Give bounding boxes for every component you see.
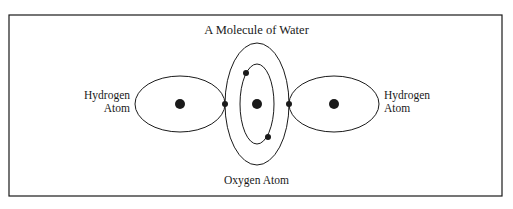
inner-electron-top xyxy=(243,70,249,76)
diagram-title: A Molecule of Water xyxy=(0,24,513,37)
oxygen-label: Oxygen Atom xyxy=(0,174,513,187)
oxygen-nucleus xyxy=(252,99,262,109)
hydrogen-right-label-line1: Hydrogen xyxy=(384,89,444,102)
hydrogen-right-label: Hydrogen Atom xyxy=(384,89,444,115)
hydrogen-right-label-line2: Atom xyxy=(384,102,444,115)
hydrogen-right-nucleus xyxy=(329,99,339,109)
hydrogen-left-label: Hydrogen Atom xyxy=(70,89,130,115)
shared-electron-left xyxy=(222,101,228,107)
hydrogen-left-nucleus xyxy=(175,99,185,109)
hydrogen-left-label-line1: Hydrogen xyxy=(70,89,130,102)
hydrogen-left-label-line2: Atom xyxy=(70,102,130,115)
inner-electron-bottom xyxy=(265,134,271,140)
shared-electron-right xyxy=(286,101,292,107)
